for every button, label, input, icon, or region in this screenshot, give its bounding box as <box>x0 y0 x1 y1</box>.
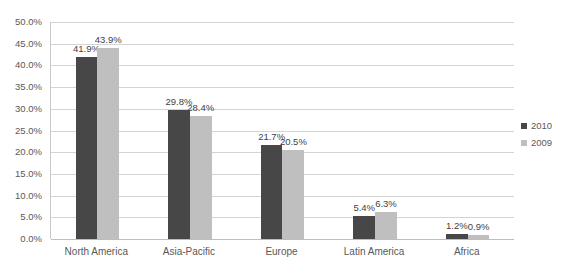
legend-item-2010[interactable]: 2010 <box>521 117 571 134</box>
bar-2009-latin-america[interactable] <box>375 212 397 239</box>
y-axis-tick-label: 0.0% <box>20 234 42 244</box>
y-axis-tick-label: 5.0% <box>20 212 42 222</box>
y-axis-tick-label: 35.0% <box>15 82 42 92</box>
bar-group <box>168 22 212 239</box>
legend-item-2009[interactable]: 2009 <box>521 134 571 151</box>
bar-chart: 0.0%5.0%10.0%15.0%20.0%25.0%30.0%35.0%40… <box>0 0 575 272</box>
bar-2010-africa[interactable] <box>446 234 468 239</box>
y-axis-tick-label: 50.0% <box>15 17 42 27</box>
bar-2010-asia-pacific[interactable] <box>168 110 190 239</box>
bar-group <box>446 22 490 239</box>
y-axis: 0.0%5.0%10.0%15.0%20.0%25.0%30.0%35.0%40… <box>0 0 46 272</box>
bar-group <box>261 22 305 239</box>
y-axis-tick-label: 15.0% <box>15 169 42 179</box>
axis-baseline <box>51 239 514 240</box>
category-label: Europe <box>265 246 297 258</box>
legend-label: 2010 <box>531 121 552 131</box>
plot-area: 41.9%43.9%29.8%28.4%21.7%20.5%5.4%6.3%1.… <box>50 22 514 239</box>
y-axis-tick-label: 40.0% <box>15 60 42 70</box>
bar-2010-north-america[interactable] <box>76 57 98 239</box>
bar-2009-africa[interactable] <box>468 235 490 239</box>
y-axis-tick-label: 20.0% <box>15 147 42 157</box>
y-axis-tick-label: 30.0% <box>15 104 42 114</box>
category-label: North America <box>65 246 128 258</box>
bar-2009-europe[interactable] <box>282 150 304 239</box>
legend-swatch-icon <box>521 140 527 146</box>
y-axis-tick-label: 25.0% <box>15 126 42 136</box>
chart-legend: 20102009 <box>521 117 571 151</box>
bar-2010-europe[interactable] <box>261 145 283 239</box>
bar-2009-asia-pacific[interactable] <box>190 116 212 239</box>
bar-2009-north-america[interactable] <box>97 48 119 239</box>
x-axis-category-labels: North AmericaAsia-PacificEuropeLatin Ame… <box>50 246 513 266</box>
category-label: Africa <box>454 246 480 258</box>
bars-layer: 41.9%43.9%29.8%28.4%21.7%20.5%5.4%6.3%1.… <box>51 22 514 239</box>
bar-2010-latin-america[interactable] <box>353 216 375 239</box>
legend-swatch-icon <box>521 123 527 129</box>
y-axis-tick-label: 45.0% <box>15 39 42 49</box>
bar-group <box>76 22 120 239</box>
bar-group <box>353 22 397 239</box>
category-label: Asia-Pacific <box>163 246 215 258</box>
y-axis-tick-label: 10.0% <box>15 191 42 201</box>
category-label: Latin America <box>344 246 405 258</box>
legend-label: 2009 <box>531 138 552 148</box>
